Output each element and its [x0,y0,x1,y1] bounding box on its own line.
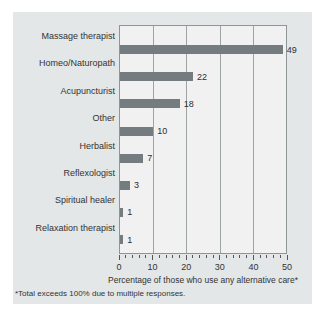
axis-tick-major [287,255,288,260]
bar-value-label: 3 [134,180,139,190]
bar-rows: 492218107311 [120,26,286,253]
axis-tick-minor [273,255,274,258]
bar-row: 1 [120,220,286,247]
tick-label: 20 [181,262,191,273]
tick-label: 50 [282,262,292,273]
axis-tick-minor [166,255,167,258]
bar-value-label: 7 [147,153,152,163]
bar-row: 18 [120,84,286,111]
x-axis-title: Percentage of those who use any alternat… [119,275,287,285]
axis-tick-minor [179,255,180,258]
footnote: *Total exceeds 100% due to multiple resp… [15,289,185,298]
axis-tick-minor [192,255,193,258]
tick-label: 10 [148,262,158,273]
category-label: Massage therapist [13,29,115,56]
x-axis-tick-labels: 01020304050 [119,262,287,273]
category-labels-column: Massage therapistHomeo/NaturopathAcupunc… [13,25,115,254]
category-label: Herbalist [13,139,115,166]
axis-tick-minor [260,255,261,258]
x-axis-ticks [119,255,287,261]
bar-row: 3 [120,166,286,193]
bar-row: 1 [120,193,286,220]
axis-tick-minor [139,255,140,258]
axis-tick-minor [199,255,200,258]
category-label: Other [13,111,115,138]
bar: 18 [120,99,180,108]
plot-area: 492218107311 [119,25,287,254]
bar: 10 [120,127,153,136]
axis-tick-minor [132,255,133,258]
axis-tick-major [119,255,120,260]
bar-value-label: 10 [157,126,167,136]
category-label: Homeo/Naturopath [13,56,115,83]
axis-tick-minor [239,255,240,258]
category-label: Relaxation therapist [13,221,115,248]
category-label: Acupuncturist [13,84,115,111]
axis-tick-minor [125,255,126,258]
bar-value-label: 1 [127,207,132,217]
bar-value-label: 1 [127,235,132,245]
axis-tick-minor [159,255,160,258]
chart-panel: Massage therapistHomeo/NaturopathAcupunc… [13,12,312,304]
axis-tick-minor [226,255,227,258]
axis-tick-major [152,255,153,260]
bar: 3 [120,181,130,190]
bar: 1 [120,208,123,217]
bar: 49 [120,45,283,54]
axis-tick-minor [246,255,247,258]
bar-row: 7 [120,139,286,166]
tick-label: 40 [248,262,258,273]
axis-tick-minor [266,255,267,258]
bar: 1 [120,235,123,244]
axis-tick-minor [280,255,281,258]
axis-tick-minor [206,255,207,258]
tick-label: 30 [215,262,225,273]
axis-tick-major [186,255,187,260]
x-axis-title-text: Percentage of those who use any alternat… [108,275,298,285]
axis-tick-major [253,255,254,260]
bar-row: 10 [120,111,286,138]
bar-row: 22 [120,57,286,84]
axis-tick-minor [145,255,146,258]
category-label: Spiritual healer [13,193,115,220]
bar-row: 49 [120,30,286,57]
bar-value-label: 22 [197,72,207,82]
axis-tick-major [219,255,220,260]
axis-tick-minor [213,255,214,258]
axis-tick-minor [233,255,234,258]
bar-value-label: 49 [287,45,297,55]
bar: 7 [120,154,143,163]
bar-value-label: 18 [184,99,194,109]
tick-label: 0 [116,262,121,273]
bar: 22 [120,72,193,81]
axis-tick-minor [172,255,173,258]
category-label: Reflexologist [13,166,115,193]
